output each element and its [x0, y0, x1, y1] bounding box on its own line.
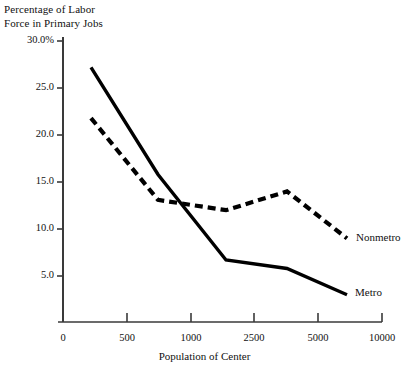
y-tick-label: 25.0 — [2, 81, 54, 92]
x-tick-label: 1000 — [161, 332, 221, 343]
series-line-metro — [91, 67, 347, 294]
series-line-nonmetro — [91, 118, 347, 238]
x-tick-label: 500 — [97, 332, 157, 343]
series-group — [91, 67, 347, 294]
chart-plot-area — [0, 0, 409, 376]
x-axis-title: Population of Center — [0, 350, 409, 362]
x-tick-label: 2500 — [224, 332, 284, 343]
y-tick-label: 10.0 — [2, 222, 54, 233]
series-label-nonmetro: Nonmetro — [356, 231, 401, 243]
axes-group — [57, 37, 382, 322]
y-tick-label: 30.0% — [2, 34, 54, 45]
series-label-metro: Metro — [355, 286, 382, 298]
x-tick-label: 10000 — [352, 332, 409, 343]
y-tick-label: 15.0 — [2, 175, 54, 186]
y-tick-label: 5.0 — [2, 269, 54, 280]
chart-container: Percentage of Labor Force in Primary Job… — [0, 0, 409, 376]
x-tick-label: 0 — [33, 332, 93, 343]
y-tick-label: 20.0 — [2, 128, 54, 139]
x-tick-label: 5000 — [288, 332, 348, 343]
